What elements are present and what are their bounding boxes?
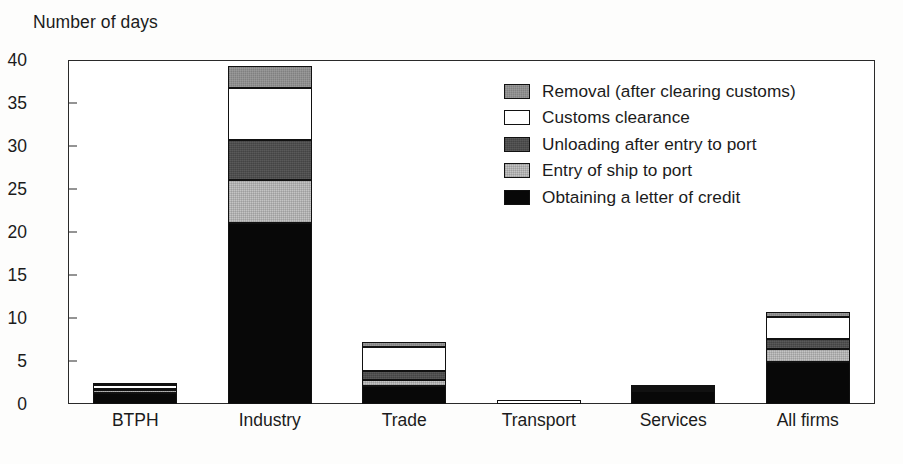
bar-group[interactable] [362, 60, 446, 404]
bar-segment[interactable] [766, 312, 850, 317]
bar-segment[interactable] [93, 388, 177, 390]
legend-item-label: Unloading after entry to port [542, 134, 757, 155]
bar-segment[interactable] [766, 317, 850, 339]
y-axis-tick-label: 20 [8, 222, 27, 243]
legend-swatch-icon [504, 84, 530, 99]
y-axis-tick-label: 40 [8, 50, 27, 71]
bar-segment[interactable] [631, 387, 715, 389]
bar-segment[interactable] [228, 66, 312, 88]
y-axis-tick-label: 30 [8, 136, 27, 157]
bar-segment[interactable] [93, 390, 177, 393]
bar-segment[interactable] [362, 386, 446, 404]
y-axis-tick-mark [68, 146, 77, 147]
y-axis-tick-label: 5 [17, 351, 27, 372]
bar-segment[interactable] [93, 385, 177, 388]
bar-segment[interactable] [766, 339, 850, 349]
x-axis-tick-label: All firms [777, 410, 839, 431]
bar-group[interactable] [228, 60, 312, 404]
x-axis-tick-label: Services [640, 410, 707, 431]
bar-segment[interactable] [228, 140, 312, 180]
bar-segment[interactable] [362, 347, 446, 371]
x-axis-tick-label: Industry [239, 410, 301, 431]
bar-segment[interactable] [228, 88, 312, 140]
y-axis-tick-label: 0 [17, 394, 27, 415]
y-axis-tick-label: 10 [8, 308, 27, 329]
bar-segment[interactable] [93, 383, 177, 385]
chart-figure: Number of days 0510152025303540 BTPHIndu… [0, 0, 903, 464]
legend-item[interactable]: Obtaining a letter of credit [504, 184, 864, 211]
y-axis-tick-mark [68, 275, 77, 276]
y-axis-tick-mark [68, 318, 77, 319]
x-axis-tick-label: Transport [502, 410, 576, 431]
bar-segment[interactable] [766, 349, 850, 362]
bar-segment[interactable] [631, 391, 715, 404]
bar-segment[interactable] [93, 393, 177, 404]
bar-segment[interactable] [631, 389, 715, 391]
bar-segment[interactable] [362, 371, 446, 380]
y-axis-tick-mark [68, 361, 77, 362]
x-axis-tick-label: BTPH [112, 410, 159, 431]
legend-item-label: Customs clearance [542, 107, 690, 128]
bar-segment[interactable] [766, 362, 850, 404]
x-axis: BTPHIndustryTradeTransportServicesAll fi… [68, 410, 875, 450]
bar-segment[interactable] [228, 180, 312, 223]
y-axis-tick-label: 35 [8, 93, 27, 114]
legend-item-label: Removal (after clearing customs) [542, 81, 796, 102]
bar-segment[interactable] [362, 380, 446, 386]
legend-swatch-icon [504, 163, 530, 178]
legend-item[interactable]: Removal (after clearing customs) [504, 78, 864, 105]
legend-swatch-icon [504, 110, 530, 125]
x-axis-tick-label: Trade [382, 410, 427, 431]
y-axis-tick-mark [68, 103, 77, 104]
legend-swatch-icon [504, 190, 530, 205]
legend-item[interactable]: Unloading after entry to port [504, 131, 864, 158]
y-axis-tick-label: 15 [8, 265, 27, 286]
legend-item-label: Entry of ship to port [542, 160, 692, 181]
y-axis: 0510152025303540 [0, 0, 68, 464]
legend-item[interactable]: Entry of ship to port [504, 158, 864, 185]
legend-item[interactable]: Customs clearance [504, 105, 864, 132]
y-axis-tick-mark [68, 232, 77, 233]
bar-segment[interactable] [497, 400, 581, 404]
bar-segment[interactable] [631, 385, 715, 387]
chart-legend: Removal (after clearing customs)Customs … [504, 78, 864, 211]
legend-item-label: Obtaining a letter of credit [542, 187, 740, 208]
bar-segment[interactable] [228, 223, 312, 404]
y-axis-tick-mark [68, 189, 77, 190]
bar-group[interactable] [93, 60, 177, 404]
legend-swatch-icon [504, 137, 530, 152]
y-axis-tick-label: 25 [8, 179, 27, 200]
bar-segment[interactable] [362, 342, 446, 347]
